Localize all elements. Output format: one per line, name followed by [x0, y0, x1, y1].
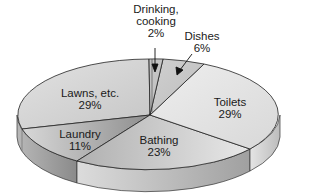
label-laundry: Laundry 11% — [55, 128, 105, 152]
label-drinking: Drinking, cooking 2% — [131, 3, 181, 39]
label-lawns: Lawns, etc. 29% — [60, 87, 120, 111]
label-dishes: Dishes 6% — [180, 30, 224, 54]
label-toilets: Toilets 29% — [205, 96, 255, 120]
label-bathing: Bathing 23% — [134, 134, 184, 158]
